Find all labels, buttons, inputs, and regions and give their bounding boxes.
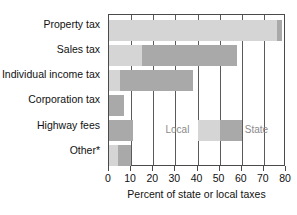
x-tick-40 <box>197 166 198 171</box>
x-tick-0 <box>108 166 109 171</box>
legend-swatch-local <box>198 120 220 141</box>
category-label-individual-income-tax: Individual income tax <box>0 69 100 80</box>
legend-label-local: Local <box>166 124 190 135</box>
x-tick-label-80: 80 <box>273 172 297 184</box>
bar-segment-state <box>120 70 193 91</box>
plot-area: LocalState <box>108 14 285 166</box>
bar-chart: Property tax Sales tax Individual income… <box>0 0 297 215</box>
bar-segment-local <box>109 70 120 91</box>
bar-row <box>109 145 286 166</box>
legend: LocalState <box>109 120 286 141</box>
bar-segment-state <box>142 45 237 66</box>
category-axis-labels: Property tax Sales tax Individual income… <box>0 14 104 166</box>
x-tick-label-30: 30 <box>162 172 186 184</box>
bar-segment-state <box>109 95 124 116</box>
x-tick-label-50: 50 <box>207 172 231 184</box>
bar-segment-state <box>277 20 281 41</box>
bar-row <box>109 45 286 66</box>
legend-label-state: State <box>245 124 268 135</box>
x-tick-label-40: 40 <box>185 172 209 184</box>
x-tick-50 <box>219 166 220 171</box>
x-axis-title: Percent of state or local taxes <box>108 188 285 200</box>
bar-segment-local <box>109 145 118 166</box>
x-tick-10 <box>130 166 131 171</box>
legend-swatch-state <box>220 120 242 141</box>
x-tick-80 <box>285 166 286 171</box>
x-tick-60 <box>241 166 242 171</box>
x-tick-label-60: 60 <box>229 172 253 184</box>
bar-segment-local <box>109 45 142 66</box>
category-label-corporation-tax: Corporation tax <box>0 94 100 105</box>
x-tick-label-0: 0 <box>96 172 120 184</box>
category-label-other: Other* <box>0 145 100 156</box>
bar-row <box>109 95 286 116</box>
category-label-sales-tax: Sales tax <box>0 44 100 55</box>
bar-row <box>109 20 286 41</box>
x-tick-label-10: 10 <box>118 172 142 184</box>
x-tick-20 <box>152 166 153 171</box>
x-tick-70 <box>263 166 264 171</box>
x-tick-label-20: 20 <box>140 172 164 184</box>
x-tick-label-70: 70 <box>251 172 275 184</box>
category-label-highway-fees: Highway fees <box>0 120 100 131</box>
bar-row <box>109 70 286 91</box>
bar-segment-local <box>109 20 277 41</box>
bar-segment-state <box>118 145 131 166</box>
category-label-property-tax: Property tax <box>0 19 100 30</box>
x-tick-30 <box>174 166 175 171</box>
